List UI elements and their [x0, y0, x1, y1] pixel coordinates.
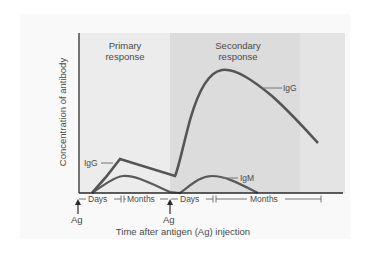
igg-secondary-label: IgG [283, 83, 297, 94]
antibody-response-diagram: Primary response Secondary response IgG … [0, 0, 372, 254]
y-axis-label: Concentration of antibody [57, 58, 68, 166]
segment-days-1: Days [88, 194, 107, 205]
igm-label: IgM [240, 173, 254, 184]
primary-response-label: Primary response [100, 40, 150, 62]
igg-primary-label: IgG [84, 158, 98, 169]
x-axis-label: Time after antigen (Ag) injection [88, 226, 278, 237]
segment-days-2: Days [180, 194, 199, 205]
ag-label-1: Ag [71, 214, 83, 225]
segment-months-1: Months [127, 194, 155, 205]
segment-months-2: Months [250, 194, 278, 205]
ag-label-2: Ag [163, 214, 175, 225]
secondary-response-label: Secondary response [208, 40, 268, 62]
